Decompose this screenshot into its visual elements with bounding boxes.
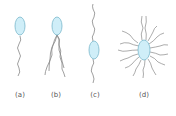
panel-d-peritrichous: [118, 16, 168, 78]
label-d: (d): [132, 91, 156, 99]
panel-b-lophotrichous: [45, 17, 65, 77]
label-b: (b): [44, 91, 68, 99]
label-c: (c): [83, 91, 107, 99]
label-a: (a): [8, 91, 32, 99]
panel-c-amphitrichous: [89, 4, 99, 83]
panel-a-monotrichous: [15, 17, 25, 76]
